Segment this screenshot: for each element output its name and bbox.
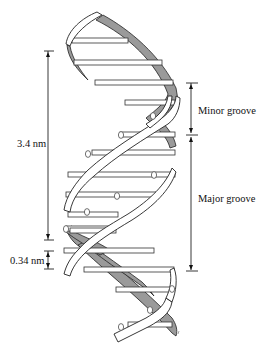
- phosphate-bead: [63, 226, 68, 233]
- base-pair-rung: [84, 267, 174, 272]
- major-groove-label: Major groove: [198, 193, 256, 204]
- phosphate-bead: [169, 286, 174, 293]
- arrow-up-icon: [46, 52, 50, 57]
- phosphate-bead: [118, 324, 123, 331]
- phosphate-bead: [118, 132, 123, 139]
- dna-double-helix-diagram: 3.4 nm 0.34 nm Minor groove Major groove: [0, 0, 266, 348]
- major-groove-dimension: [186, 137, 198, 271]
- base-pair-spacing-label: 0.34 nm: [10, 255, 44, 266]
- base-pair-spacing-dimension: [44, 251, 54, 269]
- phosphate-bead: [151, 172, 156, 179]
- base-pair-rung: [95, 80, 173, 85]
- arrow-up-icon: [46, 252, 50, 257]
- base-pair-rung: [66, 192, 156, 197]
- phosphate-bead: [147, 307, 152, 314]
- phosphate-bead: [85, 151, 90, 158]
- minor-groove-label: Minor groove: [198, 105, 256, 116]
- arrow-down-icon: [46, 263, 50, 268]
- arrow-down-icon: [189, 265, 193, 270]
- arrow-up-icon: [189, 84, 193, 89]
- helical-turn-label: 3.4 nm: [17, 138, 46, 149]
- phosphate-bead: [150, 113, 155, 120]
- base-pair-rung: [74, 60, 162, 65]
- base-pair-rung: [92, 150, 175, 155]
- phosphate-bead: [114, 193, 119, 200]
- stray-mark: [178, 331, 179, 334]
- minor-groove-dimension: [186, 83, 198, 135]
- base-pair-rung: [72, 38, 128, 43]
- arrow-down-icon: [189, 128, 193, 133]
- base-pair-rung: [68, 212, 118, 217]
- base-pair-rung: [116, 287, 174, 292]
- arrow-down-icon: [46, 234, 50, 239]
- phosphate-bead: [84, 209, 89, 216]
- arrow-up-icon: [189, 137, 193, 142]
